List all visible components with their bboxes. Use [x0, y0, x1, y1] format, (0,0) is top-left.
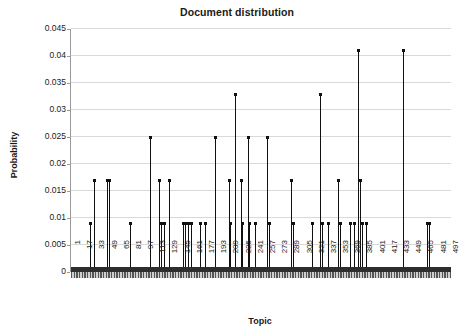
- data-point-marker: [266, 136, 269, 139]
- y-tick-label: 0: [20, 266, 66, 276]
- y-tick-label: 0.025: [20, 131, 66, 141]
- data-point-marker: [353, 222, 356, 225]
- y-tick-mark: [67, 110, 70, 111]
- data-stem: [107, 181, 108, 272]
- data-point-marker: [361, 222, 364, 225]
- document-distribution-chart: Document distribution Probability 00.005…: [0, 0, 474, 333]
- data-point-marker: [359, 179, 362, 182]
- y-tick-label: 0.005: [20, 239, 66, 249]
- y-tick-mark: [67, 272, 70, 273]
- data-point-marker: [402, 49, 405, 52]
- x-tick-label: 33: [97, 240, 106, 274]
- gridline: [71, 28, 451, 29]
- x-tick-label: 449: [414, 240, 423, 274]
- x-tick-label: 337: [329, 240, 338, 274]
- gridline: [71, 190, 451, 191]
- x-tick-label: 321: [317, 240, 326, 274]
- y-tick-label: 0.015: [20, 185, 66, 195]
- data-point-marker: [163, 222, 166, 225]
- data-point-marker: [292, 222, 295, 225]
- data-stem: [358, 51, 359, 272]
- data-point-marker: [168, 179, 171, 182]
- y-tick-mark: [67, 56, 70, 57]
- x-axis-title: Topic: [70, 316, 450, 326]
- x-tick-label: 225: [244, 240, 253, 274]
- x-tick-label: 465: [426, 240, 435, 274]
- x-tick-label: 497: [451, 240, 460, 274]
- data-point-marker: [228, 179, 231, 182]
- y-tick-mark: [67, 164, 70, 165]
- data-point-marker: [327, 222, 330, 225]
- data-point-marker: [89, 222, 92, 225]
- data-point-marker: [321, 222, 324, 225]
- data-point-marker: [240, 179, 243, 182]
- gridline: [71, 55, 451, 56]
- x-tick-label: 401: [378, 240, 387, 274]
- x-tick-label: 417: [390, 240, 399, 274]
- x-tick-label: 289: [292, 240, 301, 274]
- x-tick-label: 49: [110, 240, 119, 274]
- y-tick-label: 0.045: [20, 23, 66, 33]
- y-tick-mark: [67, 191, 70, 192]
- data-point-marker: [337, 179, 340, 182]
- y-tick-label: 0.01: [20, 212, 66, 222]
- gridline: [71, 217, 451, 218]
- x-tick-label: 145: [183, 240, 192, 274]
- data-point-marker: [93, 179, 96, 182]
- data-point-marker: [254, 222, 257, 225]
- data-point-marker: [365, 222, 368, 225]
- data-point-marker: [339, 222, 342, 225]
- gridline: [71, 163, 451, 164]
- x-tick-label: 81: [134, 240, 143, 274]
- x-tick-label: 17: [85, 240, 94, 274]
- data-point-marker: [268, 222, 271, 225]
- data-stem: [350, 224, 351, 272]
- x-tick-label: 433: [402, 240, 411, 274]
- data-point-marker: [428, 222, 431, 225]
- y-tick-mark: [67, 245, 70, 246]
- data-point-marker: [357, 49, 360, 52]
- x-tick-label: 369: [353, 240, 362, 274]
- y-tick-mark: [67, 83, 70, 84]
- y-tick-label: 0.03: [20, 104, 66, 114]
- x-tick-label: 161: [195, 240, 204, 274]
- x-tick-label: 385: [365, 240, 374, 274]
- y-tick-mark: [67, 137, 70, 138]
- data-point-marker: [241, 222, 244, 225]
- data-point-marker: [234, 93, 237, 96]
- x-axis-tick-labels: 1173349658197113129145161177193209225241…: [70, 274, 450, 314]
- data-point-marker: [229, 222, 232, 225]
- x-tick-label: 129: [170, 240, 179, 274]
- y-axis-title: Probability: [9, 110, 19, 200]
- y-tick-mark: [67, 218, 70, 219]
- x-tick-label: 113: [158, 240, 167, 274]
- x-tick-label: 305: [305, 240, 314, 274]
- data-stem: [362, 224, 363, 272]
- data-point-marker: [247, 136, 250, 139]
- data-point-marker: [199, 222, 202, 225]
- x-tick-label: 273: [280, 240, 289, 274]
- y-tick-label: 0.035: [20, 77, 66, 87]
- data-point-marker: [108, 179, 111, 182]
- data-point-marker: [129, 222, 132, 225]
- data-point-marker: [190, 222, 193, 225]
- data-point-marker: [290, 179, 293, 182]
- x-tick-label: 241: [256, 240, 265, 274]
- y-tick-label: 0.02: [20, 158, 66, 168]
- x-tick-label: 209: [231, 240, 240, 274]
- data-stem: [403, 51, 404, 272]
- x-tick-label: 353: [341, 240, 350, 274]
- x-tick-label: 1: [73, 240, 82, 274]
- y-tick-label: 0.04: [20, 50, 66, 60]
- x-tick-label: 65: [122, 240, 131, 274]
- data-point-marker: [248, 222, 251, 225]
- data-stem: [205, 224, 206, 272]
- data-point-marker: [319, 93, 322, 96]
- x-tick-label: 177: [207, 240, 216, 274]
- x-tick-label: 97: [146, 240, 155, 274]
- gridline: [71, 136, 451, 137]
- data-point-marker: [214, 136, 217, 139]
- plot-area: [70, 29, 451, 272]
- y-tick-mark: [67, 29, 70, 30]
- data-point-marker: [149, 136, 152, 139]
